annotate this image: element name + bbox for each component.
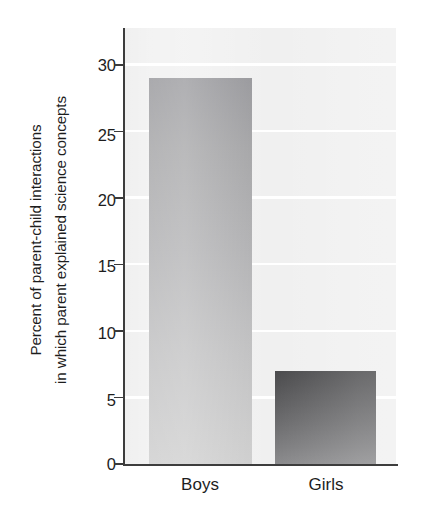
- x-tick-label-boys: Boys: [139, 474, 261, 496]
- bar-chart-figure: Percent of parent-child interactions in …: [0, 0, 421, 525]
- y-tick-label-15: 15: [72, 258, 116, 274]
- bar-boys[interactable]: [149, 78, 252, 464]
- y-tick-label-5: 5: [72, 392, 116, 408]
- y-tick-label-30: 30: [72, 57, 116, 73]
- bar-girls[interactable]: [275, 371, 376, 464]
- gridline-30: [125, 63, 396, 65]
- y-axis-title-line-1: Percent of parent-child interactions: [23, 96, 48, 384]
- y-tick-label-25: 25: [72, 127, 116, 143]
- y-tick-label-0: 0: [72, 456, 116, 472]
- y-axis-tick-labels: 30 25 20 15 10 5 0: [70, 0, 116, 525]
- plot-area: [125, 28, 396, 464]
- x-axis-tick-labels: Boys Girls: [125, 474, 396, 504]
- y-axis-title-text: Percent of parent-child interactions in …: [23, 96, 73, 384]
- x-axis-line: [123, 464, 398, 466]
- y-tick-label-20: 20: [72, 192, 116, 208]
- y-tick-label-10: 10: [72, 325, 116, 341]
- x-tick-label-girls: Girls: [265, 474, 387, 496]
- y-axis-line: [123, 28, 125, 465]
